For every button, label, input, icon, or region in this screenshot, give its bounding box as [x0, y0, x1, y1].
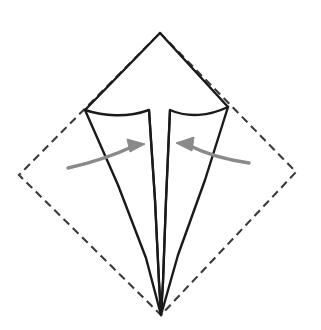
origami-diagram-svg — [0, 0, 321, 330]
origami-diagram-canvas — [0, 0, 321, 330]
